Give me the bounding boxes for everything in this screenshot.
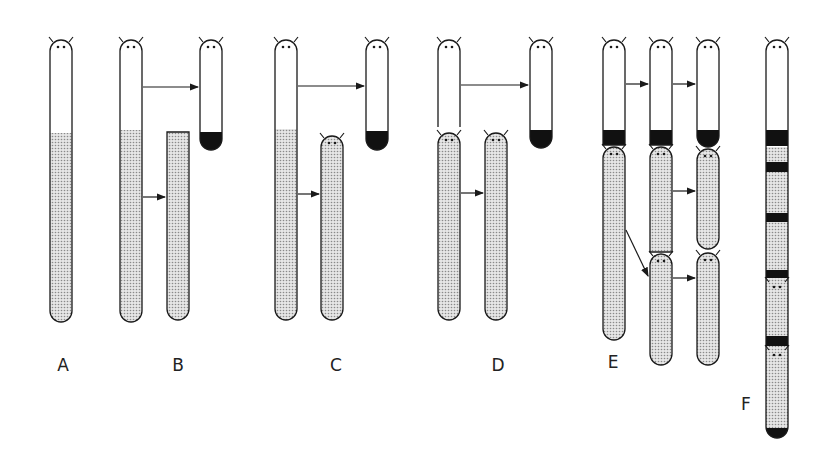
chromosome-segment bbox=[765, 37, 789, 438]
panel-a bbox=[49, 37, 73, 322]
chromosome-segment bbox=[49, 37, 73, 322]
panel-c bbox=[274, 37, 389, 320]
chromosome-segment bbox=[437, 130, 461, 320]
chromosome-segment bbox=[649, 144, 673, 252]
chromosome-segment bbox=[696, 37, 720, 147]
panel-label-b: B bbox=[172, 355, 184, 375]
panel-label-c: C bbox=[330, 355, 342, 375]
panel-label-f: F bbox=[741, 394, 751, 414]
chromosome-segment bbox=[167, 132, 189, 320]
panel-b bbox=[119, 37, 223, 322]
chromosome-segment bbox=[274, 37, 298, 320]
panel-e bbox=[602, 37, 720, 365]
chromosome-segment bbox=[119, 37, 143, 322]
panel-labels: ABCDEF bbox=[57, 352, 751, 414]
chromosome-segment bbox=[696, 146, 720, 249]
chromosome-segment bbox=[602, 144, 626, 340]
chromosome-segment bbox=[602, 37, 626, 145]
chromosome-segment bbox=[484, 130, 508, 320]
chromosome-segment bbox=[320, 133, 344, 320]
panel-f bbox=[765, 37, 789, 438]
panels-layer bbox=[49, 37, 789, 438]
chromosome-diagram: ABCDEF bbox=[0, 0, 831, 463]
arrow bbox=[626, 230, 648, 276]
dark-band bbox=[766, 162, 788, 172]
chromosome-segment bbox=[649, 37, 673, 145]
dark-band bbox=[766, 270, 788, 278]
panel-d bbox=[437, 37, 553, 320]
chromosome-segment bbox=[649, 251, 673, 365]
chromosome-segment bbox=[365, 37, 389, 150]
chromosome-segment bbox=[437, 37, 461, 127]
chromosome-segment bbox=[199, 37, 223, 150]
chromosome-segment bbox=[696, 250, 720, 365]
panel-label-e: E bbox=[608, 352, 619, 372]
panel-label-a: A bbox=[57, 355, 69, 375]
panel-label-d: D bbox=[491, 355, 504, 375]
dark-band bbox=[766, 428, 788, 438]
dark-band bbox=[766, 213, 788, 222]
chromosome-segment bbox=[529, 37, 553, 148]
dark-band bbox=[766, 336, 788, 346]
dark-band bbox=[766, 130, 788, 146]
